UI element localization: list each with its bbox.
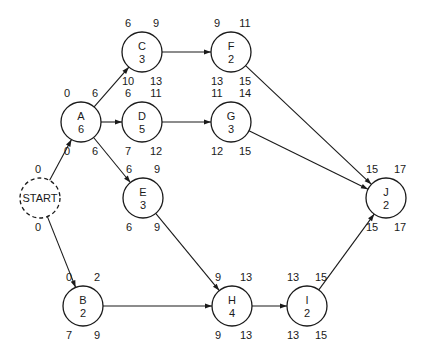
node-duration-label: 5	[139, 123, 145, 135]
node-name-label: E	[139, 186, 146, 198]
late-start-label: 7	[125, 145, 131, 157]
early-start-label: 11	[211, 87, 222, 99]
late-finish-label: 13	[150, 75, 162, 87]
late-finish-label: 9	[94, 329, 100, 341]
early-start-label: 0	[35, 163, 41, 175]
node-name-label: START	[22, 192, 57, 204]
early-finish-label: 9	[154, 163, 160, 175]
late-start-label: 13	[211, 75, 223, 87]
node-duration-label: 3	[139, 53, 145, 65]
node-name-label: I	[305, 294, 308, 306]
node-name-label: H	[228, 294, 236, 306]
early-finish-label: 6	[92, 87, 98, 99]
node-duration-label: 2	[228, 53, 234, 65]
node-duration-label: 3	[140, 199, 146, 211]
node-b-circle	[63, 286, 103, 326]
early-start-label: 0	[66, 271, 72, 283]
node-start: START00	[20, 163, 60, 233]
late-finish-label: 17	[394, 221, 406, 233]
pert-network-diagram: START00A60606B20279C3691013D5611712E3696…	[0, 0, 421, 357]
early-start-label: 15	[366, 163, 378, 175]
late-finish-label: 15	[315, 329, 327, 341]
early-finish-label: 2	[94, 271, 100, 283]
node-a-circle	[61, 102, 101, 142]
late-finish-label: 15	[239, 145, 251, 157]
late-finish-label: 9	[154, 221, 160, 233]
node-h-circle	[212, 286, 252, 326]
early-start-label: 13	[287, 271, 299, 283]
late-finish-label: 13	[240, 329, 252, 341]
edge-g-to-j-arrow	[249, 131, 368, 189]
late-start-label: 10	[122, 75, 134, 87]
late-start-label: 6	[126, 221, 132, 233]
node-name-label: A	[77, 110, 85, 122]
early-start-label: 6	[126, 163, 132, 175]
late-start-label: 0	[64, 145, 70, 157]
node-c-circle	[122, 32, 162, 72]
node-duration-label: 3	[228, 123, 234, 135]
late-start-label: 0	[35, 221, 41, 233]
edge-f-to-j-arrow	[246, 66, 372, 185]
node-f-circle	[211, 32, 251, 72]
node-j-circle	[366, 178, 406, 218]
late-finish-label: 6	[92, 145, 98, 157]
early-finish-label: 11	[239, 17, 250, 29]
node-name-label: J	[383, 186, 389, 198]
early-finish-label: 11	[150, 87, 161, 99]
node-duration-label: 6	[78, 123, 84, 135]
early-start-label: 6	[125, 17, 131, 29]
late-start-label: 7	[66, 329, 72, 341]
edge-a-to-c-arrow	[94, 67, 129, 107]
late-start-label: 12	[211, 145, 223, 157]
late-finish-label: 15	[239, 75, 251, 87]
node-name-label: F	[228, 40, 235, 52]
node-name-label: D	[138, 110, 146, 122]
late-start-label: 9	[215, 329, 221, 341]
early-finish-label: 14	[239, 87, 251, 99]
early-finish-label: 9	[153, 17, 159, 29]
node-duration-label: 2	[80, 307, 86, 319]
late-start-label: 15	[366, 221, 378, 233]
node-i: I213151315	[287, 271, 327, 341]
node-g-circle	[211, 102, 251, 142]
node-d-circle	[122, 102, 162, 142]
early-finish-label: 17	[394, 163, 406, 175]
early-finish-label: 13	[240, 271, 252, 283]
node-e: E36969	[123, 163, 163, 233]
node-j: J215171517	[366, 163, 406, 233]
early-start-label: 6	[125, 87, 131, 99]
node-name-label: C	[138, 40, 146, 52]
late-start-label: 13	[287, 329, 299, 341]
node-f: F29111315	[211, 17, 251, 87]
node-duration-label: 2	[304, 307, 310, 319]
late-finish-label: 12	[150, 145, 162, 157]
node-name-label: G	[227, 110, 236, 122]
node-e-circle	[123, 178, 163, 218]
node-c: C3691013	[122, 17, 162, 87]
early-finish-label: 15	[315, 271, 327, 283]
early-start-label: 9	[215, 271, 221, 283]
node-duration-label: 2	[383, 199, 389, 211]
node-d: D5611712	[122, 87, 162, 157]
node-duration-label: 4	[229, 307, 235, 319]
node-h: H4913913	[212, 271, 252, 341]
node-i-circle	[287, 286, 327, 326]
node-name-label: B	[79, 294, 86, 306]
early-start-label: 0	[64, 87, 70, 99]
early-start-label: 9	[214, 17, 220, 29]
node-b: B20279	[63, 271, 103, 341]
edge-e-to-h-arrow	[156, 213, 220, 290]
node-a: A60606	[61, 87, 101, 157]
node-g: G311141215	[211, 87, 251, 157]
